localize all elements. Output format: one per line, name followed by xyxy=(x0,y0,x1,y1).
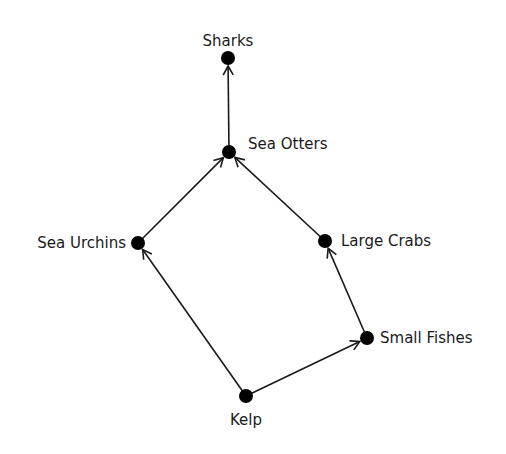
node-sea-otters xyxy=(222,145,236,159)
arrowhead-icon xyxy=(143,250,152,260)
edge-kelp-to-small-fishes xyxy=(246,341,360,396)
edge-small-fishes-to-large-crabs xyxy=(328,248,367,338)
node-label-large-crabs: Large Crabs xyxy=(341,232,431,250)
food-web-diagram: SharksSea OttersSea UrchinsLarge CrabsSm… xyxy=(0,0,506,454)
labels-layer: SharksSea OttersSea UrchinsLarge CrabsSm… xyxy=(37,32,472,429)
node-sharks xyxy=(221,51,235,65)
node-label-kelp: Kelp xyxy=(230,411,262,429)
node-kelp xyxy=(239,389,253,403)
edge-kelp-to-sea-urchins xyxy=(143,250,246,396)
edges-layer xyxy=(138,66,367,396)
node-label-sea-urchins: Sea Urchins xyxy=(37,234,126,252)
node-label-small-fishes: Small Fishes xyxy=(380,329,473,347)
edge-sea-otters-to-sharks xyxy=(228,66,229,152)
nodes-layer xyxy=(131,51,374,403)
edge-large-crabs-to-sea-otters xyxy=(235,157,325,241)
edge-sea-urchins-to-sea-otters xyxy=(138,158,223,243)
node-small-fishes xyxy=(360,331,374,345)
node-sea-urchins xyxy=(131,236,145,250)
node-large-crabs xyxy=(318,234,332,248)
node-label-sea-otters: Sea Otters xyxy=(248,135,328,153)
diagram-canvas: SharksSea OttersSea UrchinsLarge CrabsSm… xyxy=(0,0,506,454)
node-label-sharks: Sharks xyxy=(203,32,254,50)
